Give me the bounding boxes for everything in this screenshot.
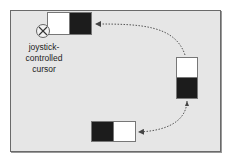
- cursor-label-line: cursor: [22, 64, 66, 75]
- cursor-label-line: joystick-: [22, 42, 66, 53]
- arrow-right-to-bottom: [139, 101, 187, 132]
- arrows-layer: [0, 0, 229, 155]
- arrow-right-to-top-left: [96, 24, 185, 55]
- cursor-icon: [37, 25, 50, 38]
- cursor-label: joystick- controlled cursor: [22, 42, 66, 75]
- cursor-label-line: controlled: [22, 53, 66, 64]
